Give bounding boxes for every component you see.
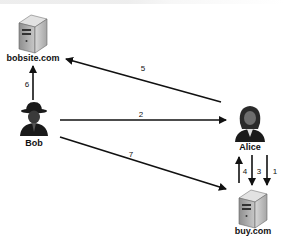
bob-attacker-icon xyxy=(20,102,48,136)
edge-3-label: 3 xyxy=(257,167,261,176)
edge-6-label: 6 xyxy=(25,80,29,89)
edge-5-label: 5 xyxy=(141,64,145,73)
bobsite-label: bobsite.com xyxy=(6,53,59,63)
edge-7-label: 7 xyxy=(129,150,133,159)
alice-label: Alice xyxy=(239,142,261,152)
buy-label: buy.com xyxy=(235,226,271,236)
bob-label: Bob xyxy=(25,138,43,148)
alice-user-icon xyxy=(235,106,265,142)
diagram-canvas xyxy=(0,0,284,241)
edge-4-label: 4 xyxy=(243,167,247,176)
buy-server-icon xyxy=(239,190,267,228)
bobsite-server-icon xyxy=(19,15,47,53)
edge-7-arrow xyxy=(60,137,226,189)
edge-2-label: 2 xyxy=(139,110,143,119)
edge-1-label: 1 xyxy=(273,167,277,176)
